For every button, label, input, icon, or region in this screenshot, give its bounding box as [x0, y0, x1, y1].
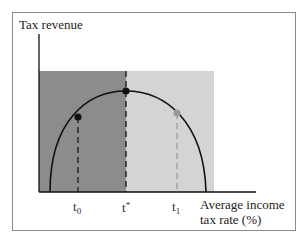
tick-t1: t1: [172, 200, 180, 218]
x-axis-label-line1: Average income: [200, 197, 285, 212]
x-axis-label-line2: tax rate (%): [200, 212, 261, 227]
region-left-of-peak: [39, 71, 126, 192]
y-axis-label: Tax revenue: [19, 17, 83, 32]
tick-t-star: t*: [122, 198, 130, 215]
tick-t0: t0: [73, 200, 81, 218]
region-right-of-peak: [126, 71, 214, 192]
point-t1: [173, 109, 180, 116]
point-t0: [74, 113, 81, 120]
point-t-star: [122, 87, 129, 94]
